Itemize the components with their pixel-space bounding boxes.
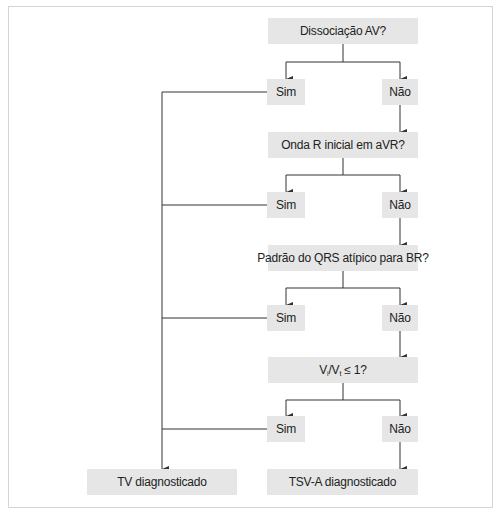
result-label: TSV-A diagnosticado [289,475,397,489]
answer-yes-3: Sim [267,305,305,331]
answer-no-2: Não [382,192,418,218]
answer-yes-2: Sim [267,192,305,218]
no-label: Não [389,85,410,99]
question-label: Dissociação AV? [300,24,386,38]
answer-no-4: Não [382,416,418,442]
yes-label: Sim [276,311,296,325]
no-label: Não [389,198,410,212]
answer-no-3: Não [382,305,418,331]
no-label: Não [389,422,410,436]
answer-no-1: Não [382,79,418,105]
answer-yes-4: Sim [267,416,305,442]
yes-label: Sim [276,198,296,212]
yes-label: Sim [276,422,296,436]
question-label: Onda R inicial em aVR? [281,138,405,152]
answer-yes-1: Sim [267,79,305,105]
result-vt-diagnosed: TV diagnosticado [87,469,237,495]
question-label: Vi/Vt ≤ 1? [319,363,366,377]
question-initial-r-wave: Onda R inicial em aVR? [268,132,418,158]
yes-label: Sim [276,85,296,99]
result-svt-diagnosed: TSV-A diagnosticado [267,469,418,495]
question-vi-vt-ratio: Vi/Vt ≤ 1? [268,357,418,383]
no-label: Não [389,311,410,325]
result-label: TV diagnosticado [117,475,207,489]
question-label: Padrão do QRS atípico para BR? [257,251,428,265]
question-atypical-qrs: Padrão do QRS atípico para BR? [268,245,418,271]
question-av-dissociation: Dissociação AV? [268,18,418,44]
